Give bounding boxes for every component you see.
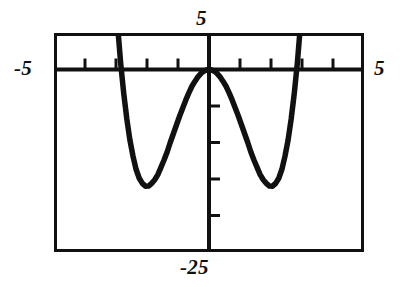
plot-frame bbox=[54, 33, 364, 252]
x-max-label: 5 bbox=[374, 56, 385, 81]
y-min-label: -25 bbox=[180, 255, 209, 280]
plot-canvas bbox=[54, 33, 364, 252]
graph-figure: 5 -5 5 -25 bbox=[0, 0, 405, 287]
y-max-label: 5 bbox=[196, 6, 207, 31]
x-min-label: -5 bbox=[14, 56, 32, 81]
